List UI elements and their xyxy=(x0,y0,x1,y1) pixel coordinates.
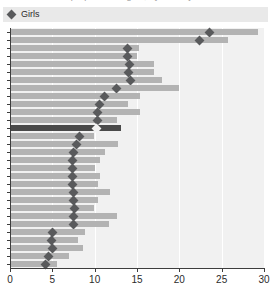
bar-row xyxy=(10,229,264,235)
x-axis-tick xyxy=(222,268,223,272)
bar-row xyxy=(10,85,264,91)
bar-row xyxy=(10,149,264,155)
x-axis-label-25: 25 xyxy=(216,274,227,285)
x-axis-label-0: 0 xyxy=(7,274,13,285)
chart-title-text: estimate of the proportion of girls, by … xyxy=(6,0,193,1)
range-bar xyxy=(10,237,78,243)
range-bar xyxy=(10,45,139,51)
x-axis-tick xyxy=(52,268,53,272)
range-bar xyxy=(10,197,98,203)
x-axis-label-20: 20 xyxy=(174,274,185,285)
range-bar xyxy=(10,93,140,99)
bar-row xyxy=(10,237,264,243)
y-axis-line xyxy=(10,28,11,269)
plot-area xyxy=(10,28,264,268)
range-bar xyxy=(10,29,258,35)
x-axis-tick xyxy=(264,268,265,272)
bar-row xyxy=(10,157,264,163)
x-axis-tick xyxy=(95,268,96,272)
bar-row xyxy=(10,245,264,251)
range-bar xyxy=(10,149,105,155)
bar-row xyxy=(10,77,264,83)
x-axis-tick-labels: 051015202530 xyxy=(0,272,271,288)
bar-row xyxy=(10,189,264,195)
bar-row xyxy=(10,221,264,227)
range-bar xyxy=(10,53,137,59)
gridline-30 xyxy=(264,28,265,268)
range-bar xyxy=(10,189,110,195)
cropped-title-remnant: estimate of the proportion of girls, by … xyxy=(0,0,271,5)
x-axis-label-5: 5 xyxy=(50,274,56,285)
diamond-marker-icon xyxy=(7,10,17,20)
bar-row xyxy=(10,45,264,51)
bar-row xyxy=(10,29,264,35)
range-bar xyxy=(10,205,94,211)
x-axis-tick xyxy=(137,268,138,272)
x-axis-tick xyxy=(179,268,180,272)
bar-row xyxy=(10,117,264,123)
range-bar xyxy=(10,157,100,163)
legend-label-girls: Girls xyxy=(21,10,40,19)
bar-row xyxy=(10,165,264,171)
range-bar xyxy=(10,141,118,147)
bar-row xyxy=(10,253,264,259)
bar-row xyxy=(10,133,264,139)
x-axis-tick xyxy=(10,268,11,272)
bar-row xyxy=(10,109,264,115)
bar-row xyxy=(10,93,264,99)
bar-row xyxy=(10,261,264,267)
bar-row xyxy=(10,173,264,179)
range-bar xyxy=(10,253,69,259)
range-bar xyxy=(10,181,98,187)
bar-row xyxy=(10,141,264,147)
bar-row xyxy=(10,61,264,67)
bar-row xyxy=(10,101,264,107)
bar-row xyxy=(10,205,264,211)
range-bar xyxy=(10,85,179,91)
bar-row xyxy=(10,197,264,203)
bar-row xyxy=(10,37,264,43)
chart-legend: Girls xyxy=(3,7,268,22)
x-axis-label-30: 30 xyxy=(258,274,269,285)
range-bar xyxy=(10,165,95,171)
range-bar xyxy=(10,109,140,115)
bar-row xyxy=(10,125,264,131)
x-axis-label-10: 10 xyxy=(89,274,100,285)
bar-row xyxy=(10,53,264,59)
range-bar xyxy=(10,221,109,227)
bar-row xyxy=(10,181,264,187)
range-bar xyxy=(10,101,128,107)
bar-row xyxy=(10,69,264,75)
range-bar xyxy=(10,213,117,219)
range-bar xyxy=(10,125,121,131)
range-bar xyxy=(10,77,162,83)
x-axis-label-15: 15 xyxy=(131,274,142,285)
range-bar xyxy=(10,173,100,179)
bar-row xyxy=(10,213,264,219)
